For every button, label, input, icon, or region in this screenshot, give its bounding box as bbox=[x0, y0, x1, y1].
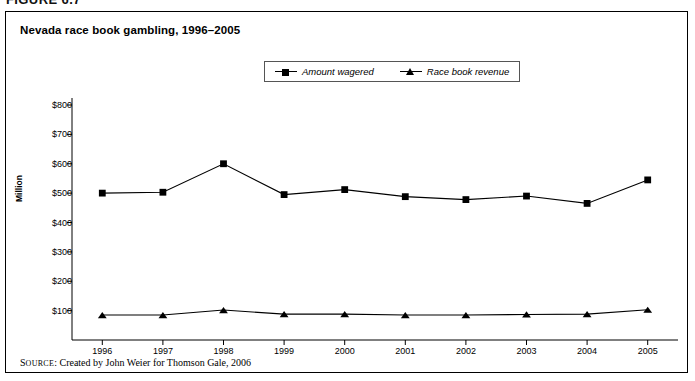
x-tick-label: 2005 bbox=[638, 346, 658, 356]
x-tick-label: 2004 bbox=[577, 346, 597, 356]
source-text: : Created by John Weier for Thomson Gale… bbox=[54, 357, 251, 368]
source-note: SOURCE: Created by John Weier for Thomso… bbox=[20, 357, 251, 368]
figure-box: Nevada race book gambling, 1996–2005 Amo… bbox=[5, 11, 688, 373]
x-tick-label: 1998 bbox=[213, 346, 233, 356]
y-tick-label: $800 bbox=[52, 100, 72, 110]
y-tick-label: $600 bbox=[52, 159, 72, 169]
figure-number: FIGURE 6.7 bbox=[6, 0, 81, 7]
source-label: OURCE bbox=[26, 359, 55, 368]
x-tick-label: 1999 bbox=[274, 346, 294, 356]
y-tick-label: $500 bbox=[52, 188, 72, 198]
y-tick-label: $200 bbox=[52, 276, 72, 286]
y-axis-title: Million bbox=[14, 175, 24, 202]
x-tick-label: 2003 bbox=[516, 346, 536, 356]
y-tick-label: $300 bbox=[52, 247, 72, 257]
x-tick-label: 2000 bbox=[335, 346, 355, 356]
x-tick-label: 2001 bbox=[395, 346, 415, 356]
y-tick-label: $400 bbox=[52, 218, 72, 228]
x-tick-label: 1996 bbox=[92, 346, 112, 356]
chart-plot-svg bbox=[6, 12, 689, 374]
plot-area: Million $100$200$300$400$500$600$700$800… bbox=[6, 12, 689, 374]
x-tick-label: 1997 bbox=[153, 346, 173, 356]
x-tick-label: 2002 bbox=[456, 346, 476, 356]
y-tick-label: $700 bbox=[52, 129, 72, 139]
y-axis-tick-labels: $100$200$300$400$500$600$700$800 bbox=[34, 12, 72, 374]
y-tick-label: $100 bbox=[52, 306, 72, 316]
